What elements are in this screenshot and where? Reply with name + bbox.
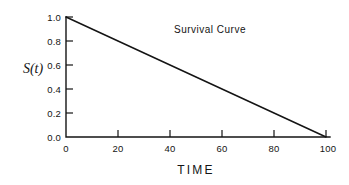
x-axis-title: TIME <box>177 163 214 177</box>
y-tick-label-0-8: 0.8 <box>47 36 61 47</box>
y-tick-label-0-2: 0.2 <box>47 108 61 119</box>
survival-curve-plot: 1.0 0.8 0.6 0.4 0.2 0.0 0 20 40 60 80 10… <box>0 0 349 185</box>
y-tick-label-1-0: 1.0 <box>47 12 61 23</box>
chart-title: Survival Curve <box>174 24 246 35</box>
chart-figure: 1.0 0.8 0.6 0.4 0.2 0.0 0 20 40 60 80 10… <box>0 0 349 185</box>
x-tick-label-20: 20 <box>113 143 124 154</box>
x-tick-label-0: 0 <box>63 143 68 154</box>
x-tick-label-40: 40 <box>165 143 176 154</box>
y-tick-label-0-6: 0.6 <box>47 60 61 71</box>
y-tick-label-0-0: 0.0 <box>47 132 61 143</box>
x-tick-label-80: 80 <box>269 143 280 154</box>
y-axis-title: S(t) <box>23 61 44 77</box>
y-tick-label-0-4: 0.4 <box>47 84 61 95</box>
x-tick-label-100: 100 <box>320 143 336 154</box>
x-tick-label-60: 60 <box>217 143 228 154</box>
survival-curve-line <box>66 17 326 137</box>
